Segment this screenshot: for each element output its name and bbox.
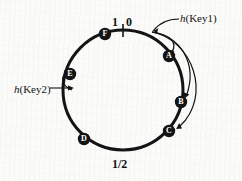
ring-node-b-label: B xyxy=(175,98,187,106)
label-one-half: 1/2 xyxy=(112,158,127,170)
label-zero: 0 xyxy=(126,16,132,28)
annotation-key2: h(Key2) xyxy=(14,84,51,95)
ring-node-f-label: F xyxy=(99,30,111,38)
label-one: 1 xyxy=(112,16,118,28)
annotation-key1: h(Key1) xyxy=(180,13,217,24)
annotation-key2-arg: (Key2) xyxy=(20,83,51,95)
ring-node-a-label: A xyxy=(163,52,175,60)
annotation-key1-arg: (Key1) xyxy=(186,12,217,24)
key1-arrowhead-c xyxy=(176,123,182,129)
ring-node-e-label: E xyxy=(64,70,76,78)
ring-node-d-label: D xyxy=(78,135,90,143)
ring-node-c-label: C xyxy=(163,127,175,135)
